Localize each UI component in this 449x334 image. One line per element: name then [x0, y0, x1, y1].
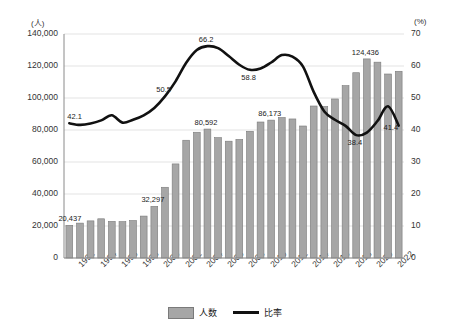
legend-bar-label: 人数	[199, 306, 217, 319]
data-label: 42.1	[67, 112, 82, 121]
data-label: 80,592	[195, 118, 218, 127]
data-label: 38.4	[348, 138, 363, 147]
data-label: 58.8	[241, 73, 256, 82]
legend-bar-swatch	[168, 307, 194, 319]
data-label: 66.2	[199, 35, 214, 44]
data-label: 32,297	[141, 195, 164, 204]
bar-series	[66, 59, 402, 258]
data-label: 20,437	[58, 214, 81, 223]
line-series	[69, 46, 398, 135]
legend-line-label: 比率	[264, 306, 282, 319]
legend: 人数 比率	[0, 306, 449, 319]
data-label: 86,173	[258, 109, 281, 118]
plot-area	[0, 0, 449, 334]
legend-line-swatch	[233, 311, 259, 314]
data-label: 41.4	[384, 123, 399, 132]
data-label: 50.5	[156, 85, 171, 94]
legend-item-line: 比率	[233, 306, 282, 319]
legend-item-bars: 人数	[168, 306, 217, 319]
data-label: 124,436	[352, 48, 379, 57]
chart-container: (人) (%) 020,00040,00060,00080,000100,000…	[0, 0, 449, 334]
